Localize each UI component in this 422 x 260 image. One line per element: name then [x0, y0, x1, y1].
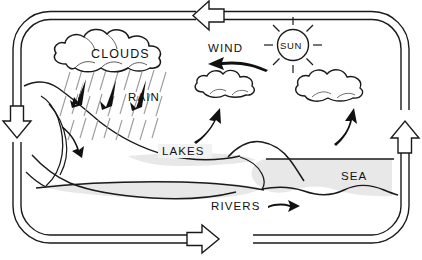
sun-label: SUN [280, 40, 302, 51]
runoff-arrow [62, 126, 84, 158]
left-arrow [3, 106, 31, 138]
wind-arrow [208, 57, 268, 72]
evaporation-arrow-left [194, 108, 221, 144]
evaporation-arrow-right [334, 108, 357, 146]
sea-label-group: SEA [341, 170, 367, 182]
water-cycle-diagram: CLOUDS RAIN WIND SUN [0, 0, 422, 260]
sun: SUN [264, 17, 322, 73]
rivers-label-group: RIVERS [211, 200, 300, 212]
right-arrow [391, 121, 419, 153]
lakes-label: LAKES [162, 145, 205, 157]
bottom-arrow [187, 225, 219, 253]
clouds-label: CLOUDS [91, 47, 150, 61]
rivers-label: RIVERS [211, 200, 260, 212]
sea-label: SEA [341, 170, 367, 182]
river-flow-arrow [268, 200, 300, 212]
rain-label: RAIN [128, 91, 160, 103]
small-cloud-left [195, 70, 254, 97]
wind-label: WIND [208, 42, 243, 54]
top-arrow [193, 1, 224, 30]
small-cloud-right [296, 70, 363, 101]
lakes-label-group: LAKES [158, 144, 212, 158]
diagram-canvas: CLOUDS RAIN WIND SUN [0, 0, 422, 260]
